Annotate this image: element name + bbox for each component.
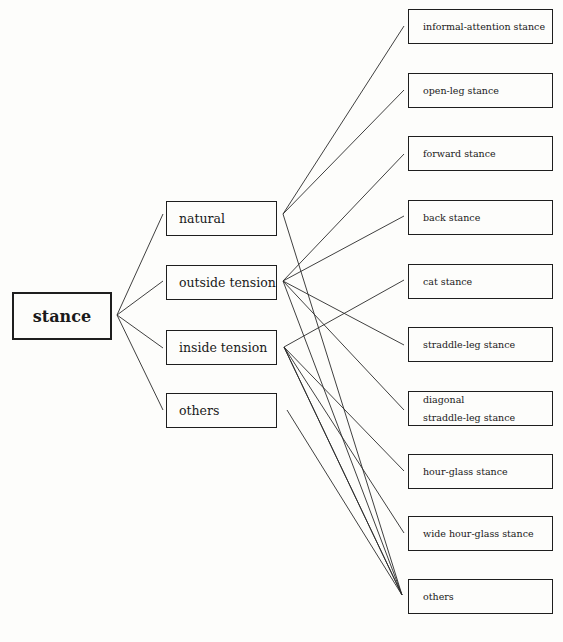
leaf-node-cat-stance: cat stance [408,264,553,299]
leaf-label-line1: diagonal [423,391,515,409]
leaf-label: open-leg stance [423,82,499,100]
leaf-node-diagonal-straddle-leg-stance: diagonal straddle-leg stance [408,391,553,426]
category-node-natural: natural [166,201,277,236]
leaf-label: forward stance [423,145,496,163]
leaf-node-others: others [408,579,553,614]
leaf-node-informal-attention-stance: informal-attention stance [408,9,553,44]
leaf-label: back stance [423,209,480,227]
leaf-label: hour-glass stance [423,463,508,481]
leaf-node-open-leg-stance: open-leg stance [408,73,553,108]
leaf-label: cat stance [423,273,472,291]
category-node-outside-tension: outside tension [166,265,277,300]
leaf-node-forward-stance: forward stance [408,136,553,171]
leaf-node-straddle-leg-stance: straddle-leg stance [408,327,553,362]
leaf-node-wide-hour-glass-stance: wide hour-glass stance [408,516,553,551]
category-label: outside tension [179,275,276,290]
category-node-others: others [166,393,277,428]
leaf-label: wide hour-glass stance [423,525,534,543]
leaf-node-back-stance: back stance [408,200,553,235]
category-node-inside-tension: inside tension [166,330,277,365]
category-label: inside tension [179,340,267,355]
leaf-label: informal-attention stance [423,18,545,36]
leaf-label: others [423,588,454,606]
leaf-label-line2: straddle-leg stance [423,409,515,427]
leaf-label: straddle-leg stance [423,336,515,354]
root-label: stance [33,307,91,326]
leaf-node-hour-glass-stance: hour-glass stance [408,454,553,489]
category-label: others [179,403,219,418]
root-node-stance: stance [12,292,112,340]
category-label: natural [179,211,225,226]
